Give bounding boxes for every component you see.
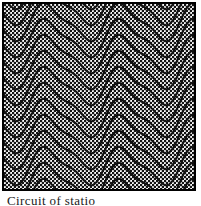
figure-caption: Circuit of statio bbox=[7, 193, 197, 206]
figure-container: Circuit of statio bbox=[0, 0, 201, 206]
contour-wave-figure bbox=[0, 0, 201, 206]
